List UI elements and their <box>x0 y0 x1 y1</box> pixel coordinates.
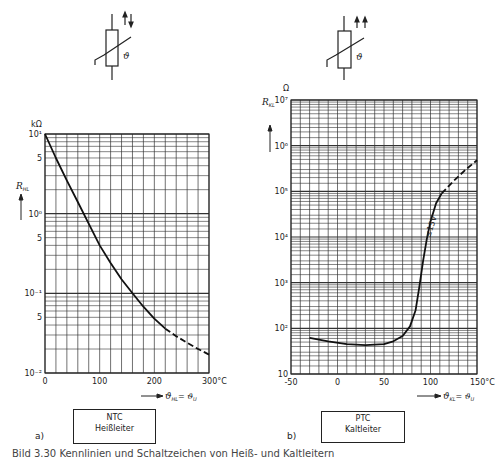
ptc-title-box: PTC Kaltleiter <box>321 411 405 443</box>
plot-frame <box>45 134 209 373</box>
y-tick-label: 10⁶ <box>275 142 288 151</box>
y-tick-label: 10³ <box>275 279 288 288</box>
ntc-grid <box>45 134 209 373</box>
x-tick-label: 200 <box>147 377 162 386</box>
panel-label-a: a) <box>35 431 44 441</box>
arrow-up-icon <box>355 17 359 28</box>
x-tick-label: 100 <box>423 378 438 387</box>
figure-caption: Bild 3.30 Kennlinien und Schaltzeichen v… <box>12 448 334 458</box>
ptc-box-line1: PTC <box>322 413 404 424</box>
figure-canvas: ϑ ϑ 0100200300°C10¹510⁰510⁻¹510⁻² kΩ RHL… <box>0 0 502 458</box>
x-tick-label: 100 <box>92 377 107 386</box>
y-tick-label: 10⁻² <box>24 369 42 378</box>
series-line-dashed <box>442 160 477 193</box>
ptc-thermistor-symbol-icon <box>327 16 367 80</box>
ptc-y-axis-arrow-icon <box>268 125 272 152</box>
ptc-y-unit: Ω <box>283 84 289 93</box>
ntc-thermistor-symbol-icon <box>95 12 133 80</box>
x-tick-label: 50 <box>379 378 389 387</box>
y-tick-label: 10⁷ <box>275 96 288 105</box>
y-tick-label: 10⁻¹ <box>24 289 42 298</box>
x-tick-label: -50 <box>284 378 297 387</box>
series-line <box>310 193 442 345</box>
ptc-y-axis-label: RKL <box>261 97 275 108</box>
ntc-x-axis-arrow-icon <box>141 394 163 398</box>
y-tick-label: 5 <box>37 154 42 163</box>
y-tick-label: 10⁴ <box>275 233 288 242</box>
ntc-chart: 0100200300°C10¹510⁰510⁻¹510⁻² <box>24 130 227 386</box>
ptc-grid <box>291 100 477 374</box>
ntc-box-line2: Heißleiter <box>74 423 155 434</box>
ntc-x-axis-label: ϑHL= ϑU <box>165 391 197 402</box>
x-tick-label: 0 <box>42 377 47 386</box>
arrow-up-icon <box>363 17 367 28</box>
ptc-symbol-theta: ϑ <box>356 52 363 62</box>
x-tick-label: 0 <box>335 378 340 387</box>
arrow-up-icon <box>123 12 127 25</box>
x-tick-label: 300°C <box>202 377 227 386</box>
ntc-symbol-theta: ϑ <box>123 51 130 61</box>
ptc-x-axis-arrow-icon <box>417 394 441 398</box>
y-tick-label: 5 <box>37 313 42 322</box>
y-tick-label: 10⁰ <box>29 210 42 219</box>
ntc-box-line1: NTC <box>74 412 155 423</box>
ptc-voltage-annotation: ≤15V <box>423 214 439 239</box>
ptc-chart: -50050100150°C1010²10³10⁴10⁵10⁶10⁷ <box>275 96 496 387</box>
arrow-down-icon <box>129 14 133 27</box>
ntc-y-axis-label: RHL <box>15 181 30 192</box>
ptc-x-axis-label: ϑKL= ϑU <box>443 391 474 402</box>
ntc-y-axis-arrow-icon <box>19 194 23 220</box>
ntc-curve <box>45 134 209 355</box>
y-tick-label: 5 <box>37 234 42 243</box>
panel-label-b: b) <box>287 431 296 441</box>
y-tick-label: 10¹ <box>29 130 42 139</box>
x-tick-label: 150°C <box>470 378 495 387</box>
ptc-box-line2: Kaltleiter <box>322 424 404 435</box>
y-tick-label: 10⁵ <box>275 187 288 196</box>
y-tick-label: 10 <box>278 370 288 379</box>
ntc-title-box: NTC Heißleiter <box>73 409 156 444</box>
ntc-y-unit: kΩ <box>31 120 42 129</box>
y-tick-label: 10² <box>275 324 288 333</box>
